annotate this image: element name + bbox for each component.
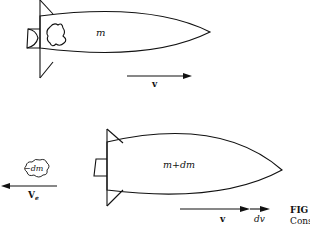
- bottom-velocity-arrow: [180, 206, 270, 212]
- top-rocket-mass-label: m: [96, 27, 105, 38]
- top-rocket-fin-top: [40, 0, 53, 14]
- bottom-rocket-mass-label: m+dm: [163, 159, 195, 170]
- exhaust-velocity-arrow: [1, 183, 57, 189]
- bottom-velocity-increment-label: dv: [254, 214, 265, 224]
- exhaust-velocity-label: Ve: [27, 190, 39, 201]
- bottom-rocket-fin-bottom: [107, 190, 123, 206]
- bottom-velocity-label: v: [219, 214, 226, 224]
- exhaust-mass-label: −dm: [24, 164, 44, 173]
- rocket-momentum-diagram: m v m+dm −dm Ve v dv FIG Cons: [0, 0, 310, 225]
- figure-caption-label: FIG: [290, 205, 308, 215]
- figure-caption-text: Cons: [290, 216, 310, 225]
- arrowhead-right-icon: [240, 206, 250, 212]
- top-rocket-fin-bottom: [40, 62, 53, 78]
- top-rocket-body: [40, 12, 210, 53]
- top-velocity-label: v: [151, 79, 158, 89]
- top-rocket-nozzle-curve: [27, 29, 38, 48]
- arrowhead-left-icon: [1, 183, 10, 189]
- bottom-rocket-nozzle: [94, 159, 107, 176]
- top-velocity-arrow: [127, 73, 192, 79]
- top-rocket: [27, 0, 210, 78]
- arrowhead-right-icon: [183, 73, 192, 79]
- arrowhead-right-icon: [260, 206, 270, 212]
- fuel-cloud-icon: [47, 24, 66, 46]
